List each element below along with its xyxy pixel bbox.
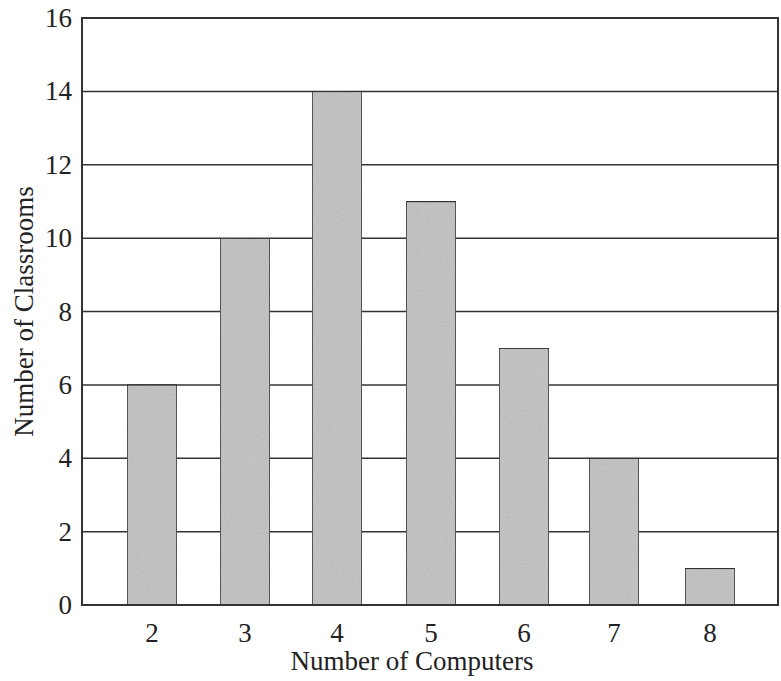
y-tick-label: 14 [45,76,73,106]
bar-2 [127,385,177,605]
x-axis-ticks: 2345678 [145,618,717,648]
y-tick-label: 2 [59,517,73,547]
y-axis-ticks: 0246810121416 [45,3,73,620]
y-tick-label: 16 [45,3,72,33]
x-tick-label: 8 [703,618,717,648]
bar-8 [685,568,735,605]
y-tick-label: 10 [45,223,72,253]
x-tick-label: 6 [517,618,531,648]
y-tick-label: 12 [45,150,72,180]
x-tick-label: 7 [607,618,621,648]
x-tick-label: 4 [330,618,344,648]
x-tick-label: 2 [145,618,159,648]
bar-5 [406,201,456,605]
x-axis-label: Number of Computers [291,646,534,676]
y-tick-label: 6 [59,370,73,400]
bar-7 [589,458,639,605]
y-tick-label: 0 [59,590,73,620]
bar-chart: 0246810121416 2345678 Number of Computer… [0,0,781,681]
x-tick-label: 3 [238,618,252,648]
x-tick-label: 5 [424,618,438,648]
y-axis-label: Number of Classrooms [9,186,39,436]
bar-4 [312,91,362,605]
y-tick-label: 8 [59,297,73,327]
bar-6 [499,348,549,605]
y-tick-label: 4 [59,443,73,473]
bars [127,91,735,605]
bar-3 [220,238,270,605]
